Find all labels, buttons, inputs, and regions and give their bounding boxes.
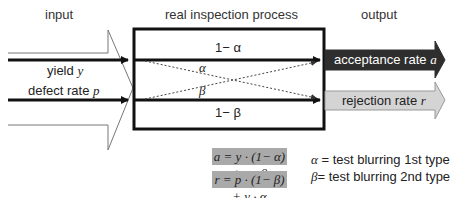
yield-symbol: y <box>77 63 83 78</box>
input-defect-label: defect rate p <box>28 83 100 99</box>
acceptance-symbol: a <box>430 52 437 67</box>
formula-rejection: r = p · (1− β) + y · α <box>212 171 287 188</box>
path-top-label: 1− α <box>215 40 241 55</box>
legend-alpha-symbol: α <box>311 152 318 167</box>
formula-acceptance: a = y · (1− α) + p · β <box>212 148 287 165</box>
header-process: real inspection process <box>165 7 298 22</box>
rejection-symbol: r <box>421 93 426 108</box>
input-yield-label: yield y <box>47 63 83 79</box>
header-output: output <box>361 7 397 22</box>
header-input: input <box>45 7 73 22</box>
beta-label: β <box>199 83 205 99</box>
legend-alpha: α = test blurring 1st type <box>311 152 450 168</box>
output-rejection-label: rejection rate r <box>342 93 426 109</box>
output-acceptance-label: acceptance rate a <box>334 52 437 68</box>
path-bottom-label: 1− β <box>215 105 241 120</box>
defect-symbol: p <box>93 83 100 98</box>
alpha-label: α <box>199 60 206 76</box>
legend-beta: β= test blurring 2nd type <box>311 169 450 185</box>
